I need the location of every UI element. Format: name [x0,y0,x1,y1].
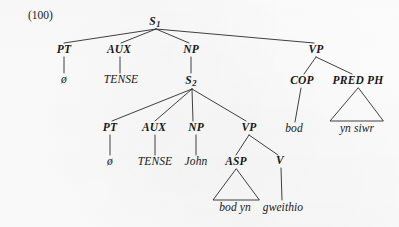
edge-s1-vp [156,29,314,43]
node-v: V [276,155,284,167]
asp-triangle [213,169,259,200]
tree-edges-layer [0,0,399,227]
edge-vp2-asp [236,135,249,155]
node-np-1: NP [183,44,199,56]
node-s1: S1 [149,16,160,29]
terminal-bod-yn: bod yn [219,202,251,214]
node-pred-ph: PRED PH [333,75,384,87]
edge-s2-pt [112,89,192,121]
node-cop: COP [290,75,314,87]
node-pt-1: PT [57,44,71,56]
node-s2: S2 [185,75,196,88]
edge-s2-np [192,89,193,121]
edge-vp1-cop [304,57,316,74]
terminal-tense-1: TENSE [104,74,138,86]
edge-vp2-v [249,135,278,155]
edge-vp1-predph [316,57,352,74]
node-vp-2: VP [241,122,256,134]
terminal-null-2: ø [107,156,113,168]
terminal-bod: bod [285,123,303,135]
example-number: (100) [28,10,53,22]
edge-s1-aux [121,29,156,43]
figure-canvas: (100) S1 PT AUX NP VP ø TENSE S2 COP PRE… [0,0,399,227]
terminal-tense-2: TENSE [138,156,172,168]
node-np-2: NP [188,122,204,134]
edge-v-gweithio [281,168,282,200]
node-asp: ASP [225,156,247,168]
edge-cop-bod [295,88,301,122]
terminal-yn-siwr: yn siwr [340,123,374,135]
edge-s2-vp [192,89,246,121]
edge-s2-aux [155,89,192,121]
pred-ph-triangle [330,88,383,121]
node-aux-1: AUX [107,44,131,56]
node-vp-1: VP [308,44,323,56]
node-aux-2: AUX [142,122,166,134]
terminal-null-1: ø [61,74,67,86]
terminal-gweithio: gweithio [263,202,303,214]
terminal-john: John [185,156,208,168]
node-pt-2: PT [103,122,117,134]
edge-s1-pt [64,29,156,43]
